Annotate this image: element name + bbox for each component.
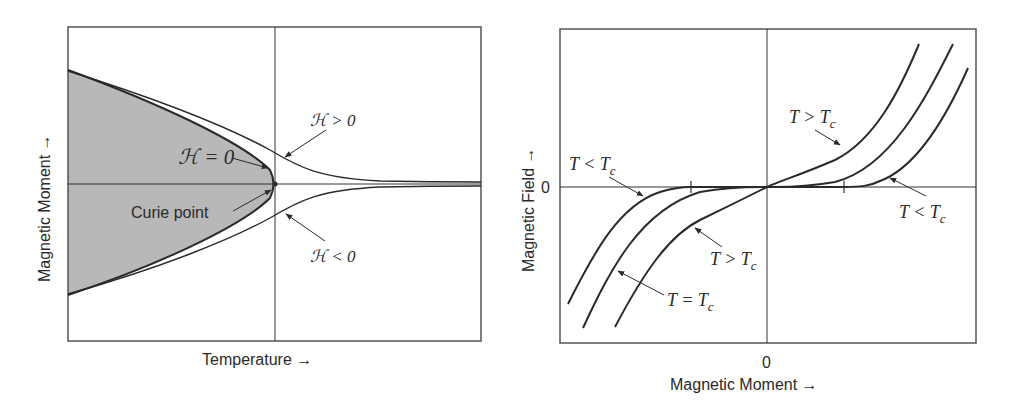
t-above-tc-bottom-arrow bbox=[695, 228, 722, 247]
figure-canvas: ℋ = 0 Curie point ℋ > 0 ℋ < 0 Temperatur… bbox=[0, 0, 1014, 419]
h-negative-label: ℋ < 0 bbox=[310, 247, 356, 266]
magnetic-moment-axis-label: Magnetic Moment → bbox=[36, 134, 53, 282]
y-zero-tick-label: 0 bbox=[541, 179, 550, 196]
curie-point-label: Curie point bbox=[131, 204, 209, 221]
temperature-axis-label: Temperature → bbox=[202, 351, 312, 368]
h-positive-label: ℋ > 0 bbox=[310, 111, 356, 130]
magnetic-moment-axis-label-right: Magnetic Moment → bbox=[670, 376, 818, 393]
right-chart: T < Tc T > Tc T < Tc T > Tc T = Tc 0 0 M… bbox=[520, 29, 976, 393]
h-negative-arrow bbox=[286, 214, 325, 241]
x-zero-tick-label: 0 bbox=[762, 354, 771, 371]
h-zero-label: ℋ = 0 bbox=[178, 145, 235, 169]
t-above-tc-top-arrow bbox=[815, 130, 840, 145]
curie-point-marker bbox=[273, 182, 278, 187]
t-below-tc-left-label: T < Tc bbox=[569, 154, 616, 178]
t-below-tc-right-label: T < Tc bbox=[899, 202, 946, 226]
left-chart: ℋ = 0 Curie point ℋ > 0 ℋ < 0 Temperatur… bbox=[36, 27, 481, 368]
magnetic-field-axis-label: Magnetic Field → bbox=[520, 148, 537, 273]
t-above-tc-top-label: T > Tc bbox=[789, 107, 836, 131]
t-equal-tc-label: T = Tc bbox=[667, 290, 714, 314]
h-positive-arrow bbox=[285, 130, 326, 157]
t-above-tc-bottom-label: T > Tc bbox=[710, 249, 757, 273]
t-equal-tc-arrow bbox=[618, 271, 664, 295]
